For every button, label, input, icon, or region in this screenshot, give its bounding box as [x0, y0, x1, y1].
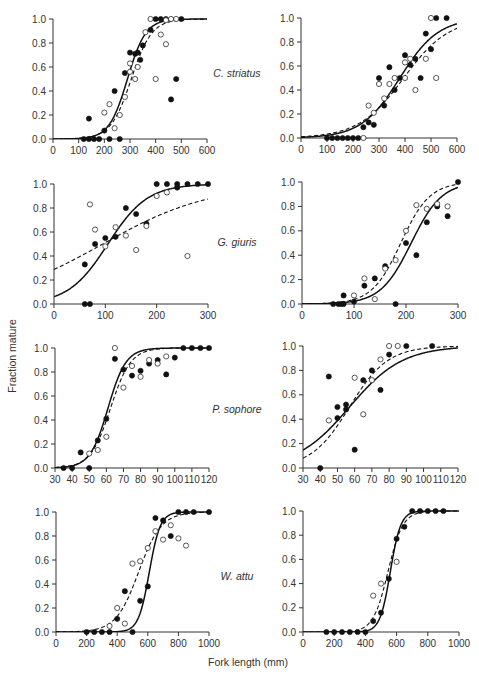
open-data-point	[123, 233, 128, 238]
filled-data-point	[340, 135, 345, 140]
panel-row2-left: 0.00.20.40.60.81.00100200300G. giuris	[33, 179, 257, 322]
species-label: G. giuris	[217, 236, 257, 248]
filled-data-point	[330, 135, 335, 140]
filled-data-point	[410, 508, 415, 513]
open-data-point	[112, 126, 117, 131]
y-tick-label: 0.4	[33, 251, 47, 262]
open-data-point	[148, 16, 153, 21]
open-data-point	[129, 363, 134, 368]
filled-data-point	[355, 629, 360, 634]
filled-data-point	[104, 416, 109, 421]
x-tick-label: 500	[173, 145, 190, 156]
y-tick-label: 0.2	[32, 110, 46, 121]
x-tick-label: 300	[200, 310, 217, 321]
filled-data-point	[122, 589, 127, 594]
open-data-point	[138, 559, 143, 564]
x-tick-label: 200	[78, 638, 95, 649]
open-data-point	[127, 69, 132, 74]
open-data-point	[351, 293, 356, 298]
open-data-point	[372, 297, 377, 302]
filled-data-point	[161, 518, 166, 523]
filled-data-point	[393, 301, 398, 306]
y-tick-label: 0.2	[281, 274, 295, 285]
filled-data-point	[324, 135, 329, 140]
open-data-point	[121, 385, 126, 390]
x-tick-label: 0	[50, 145, 56, 156]
open-data-point	[107, 623, 112, 628]
panel-row2-right: 0.00.20.40.60.81.00100200300	[281, 177, 467, 322]
filled-data-point	[404, 343, 409, 348]
filled-data-point	[371, 122, 376, 127]
filled-data-point	[112, 88, 117, 93]
filled-data-point	[91, 136, 96, 141]
filled-data-point	[148, 27, 153, 32]
open-data-point	[122, 94, 127, 99]
x-tick-label: 0	[53, 638, 59, 649]
filled-data-point	[127, 50, 132, 55]
y-tick-label: 0.4	[282, 578, 296, 589]
open-data-point	[362, 276, 367, 281]
x-tick-label: 400	[109, 638, 126, 649]
open-data-point	[408, 56, 413, 61]
y-tick-label: 0.8	[35, 531, 49, 542]
filled-data-point	[430, 343, 435, 348]
filled-data-point	[87, 301, 92, 306]
open-data-point	[130, 561, 135, 566]
open-data-point	[369, 378, 374, 383]
filled-data-point	[387, 65, 392, 70]
filled-data-point	[345, 135, 350, 140]
filled-data-point	[115, 616, 120, 621]
x-tick-label: 100	[346, 310, 363, 321]
filled-data-point	[70, 465, 75, 470]
filled-data-point	[335, 404, 340, 409]
open-data-point	[87, 202, 92, 207]
solid-fit-curve	[54, 185, 208, 297]
y-tick-label: 0.2	[282, 602, 296, 613]
filled-data-point	[175, 185, 180, 190]
open-data-point	[395, 343, 400, 348]
dashed-fit-curve	[53, 19, 207, 139]
y-tick-label: 0.4	[281, 250, 295, 261]
y-tick-label: 0.8	[280, 37, 294, 48]
y-tick-label: 0.0	[34, 463, 48, 474]
y-tick-label: 0.6	[33, 227, 47, 238]
y-tick-label: 0.6	[281, 225, 295, 236]
filled-data-point	[363, 629, 368, 634]
y-tick-label: 0.6	[280, 61, 294, 72]
filled-data-point	[318, 465, 323, 470]
filled-data-point	[444, 15, 449, 20]
filled-data-point	[129, 373, 134, 378]
open-data-point	[104, 434, 109, 439]
y-tick-label: 0.4	[35, 579, 49, 590]
y-tick-label: 0.8	[34, 367, 48, 378]
panel-row3-right: 0.00.20.40.60.81.03040506070809010011012…	[282, 341, 467, 486]
filled-data-point	[335, 135, 340, 140]
y-tick-label: 0.4	[280, 85, 294, 96]
y-tick-label: 0.0	[280, 133, 294, 144]
open-data-point	[402, 60, 407, 65]
y-tick-label: 1.0	[32, 14, 46, 25]
x-tick-label: 600	[139, 638, 156, 649]
open-data-point	[161, 537, 166, 542]
species-label: C. striatus	[213, 67, 261, 79]
open-data-point	[158, 32, 163, 37]
y-tick-label: 1.0	[282, 341, 296, 352]
panel-row3-left: 0.00.20.40.60.81.03040506070809010011012…	[34, 343, 262, 486]
open-data-point	[163, 18, 168, 23]
open-data-point	[424, 206, 429, 211]
filled-data-point	[135, 50, 140, 55]
filled-data-point	[378, 387, 383, 392]
x-tick-label: 200	[345, 144, 362, 155]
y-tick-label: 1.0	[282, 506, 296, 517]
open-data-point	[435, 201, 440, 206]
filled-data-point	[198, 345, 203, 350]
x-tick-label: 300	[122, 145, 139, 156]
filled-data-point	[191, 509, 196, 514]
filled-data-point	[181, 345, 186, 350]
filled-data-point	[113, 234, 118, 239]
filled-data-point	[387, 352, 392, 357]
y-tick-label: 0.2	[34, 439, 48, 450]
open-data-point	[403, 228, 408, 233]
y-tick-label: 1.0	[281, 177, 295, 188]
open-data-point	[153, 76, 158, 81]
